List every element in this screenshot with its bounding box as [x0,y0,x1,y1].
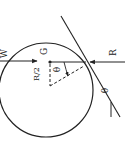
free-body-diagram [0,0,125,152]
inner-angle-arc [64,62,68,76]
offset-label: R/2 [30,70,44,78]
center-point [48,60,51,63]
incline-line [61,16,120,117]
center-label: G [41,47,48,56]
incline-angle-label: θ [103,86,108,95]
inner-angle-label: θ [55,65,60,74]
sphere-outline [0,43,93,137]
left-force-label: W [0,49,9,58]
right-force-label: R [110,48,117,57]
